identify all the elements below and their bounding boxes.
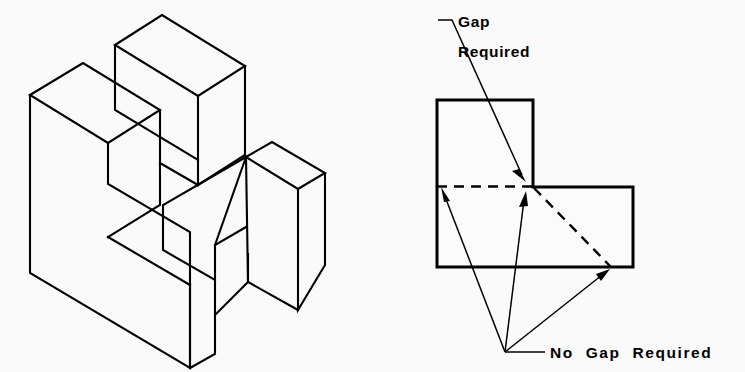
iso-front-bottom-face <box>190 315 215 368</box>
iso-right-block-diagonal-edge <box>246 157 248 282</box>
ortho-outline-path <box>437 100 633 267</box>
iso-left-slab-step-top <box>108 237 190 285</box>
leader-no-gap-arrow3-head <box>596 269 610 281</box>
iso-right-block-right-face <box>298 173 325 310</box>
isometric-pictorial <box>30 15 325 368</box>
iso-right-block-top-face <box>246 142 325 189</box>
label-no-gap-required: No Gap Required <box>550 344 712 361</box>
leader-no-gap-arrow3-line <box>505 275 602 352</box>
label-gap-required-line2: Required <box>458 43 530 60</box>
iso-notch-inner-step <box>163 206 246 280</box>
iso-upper-block-front-face <box>115 45 198 160</box>
iso-upper-block-lower-skirt <box>160 163 198 185</box>
iso-left-slab-front-face <box>30 95 190 368</box>
figure-root: Gap Required No Gap Required <box>0 0 745 372</box>
iso-upper-block-top-face <box>115 15 245 96</box>
label-gap-required-line1: Gap <box>458 13 490 30</box>
iso-front-lower-connector <box>215 280 248 315</box>
technical-drawing-svg: Gap Required No Gap Required <box>0 0 745 372</box>
iso-left-slab-top-face <box>30 63 160 143</box>
iso-right-block-front-face <box>248 254 298 310</box>
iso-left-slab-inner-vertical <box>108 110 160 237</box>
orthographic-top-view <box>437 100 633 267</box>
iso-upper-block-right-face <box>198 66 245 185</box>
